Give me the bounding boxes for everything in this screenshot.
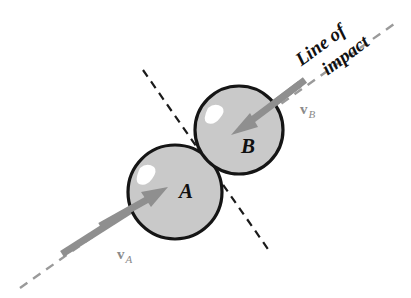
- sphere-a-label: A: [177, 179, 193, 203]
- velocity-b-subscript: B: [309, 108, 316, 120]
- figure-root: A B vA vB Lin: [0, 0, 411, 298]
- sphere-b-label: B: [240, 134, 255, 158]
- velocity-b-symbol: v: [300, 101, 308, 117]
- oblique-impact-diagram: A B vA vB Lin: [0, 0, 411, 298]
- velocity-a-symbol: v: [117, 246, 125, 262]
- velocity-a-subscript: A: [125, 253, 133, 265]
